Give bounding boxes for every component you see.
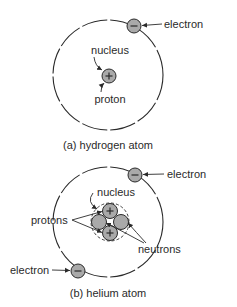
helium-caption: (b) helium atom xyxy=(70,287,146,299)
hydrogen-nucleus-label: nucleus xyxy=(91,44,129,56)
helium-electron-top-arrow xyxy=(143,174,164,175)
neutrons-arrow-right xyxy=(128,223,146,243)
helium-orbit xyxy=(53,167,163,277)
hydrogen-proton-label: proton xyxy=(94,93,125,105)
helium-electron-bottom-arrow xyxy=(52,270,70,271)
helium-protons-label: protons xyxy=(31,214,68,226)
hydrogen-proton xyxy=(102,69,116,83)
atom-diagram: electron nucleus proton (a) hydrogen ato… xyxy=(0,0,237,307)
neutron-left xyxy=(92,215,107,230)
hydrogen-nucleus-arrow xyxy=(94,57,102,70)
helium-electron-top xyxy=(128,168,142,182)
hydrogen-electron xyxy=(127,19,141,33)
helium-electron-bottom-label: electron xyxy=(10,264,49,276)
hydrogen-proton-arrow xyxy=(101,83,104,92)
hydrogen-electron-label: electron xyxy=(164,18,203,30)
neutron-right xyxy=(114,215,129,230)
helium-nucleus-arrow xyxy=(90,193,97,209)
proton-top xyxy=(103,204,118,219)
hydrogen-atom: electron nucleus proton (a) hydrogen ato… xyxy=(53,18,203,151)
helium-atom: electron electron nucle xyxy=(10,167,206,299)
helium-electron-bottom xyxy=(71,264,85,278)
hydrogen-electron-arrow xyxy=(142,24,162,26)
hydrogen-caption: (a) hydrogen atom xyxy=(63,139,153,151)
helium-neutrons-label: neutrons xyxy=(138,243,181,255)
helium-nucleus-label: nucleus xyxy=(97,186,135,198)
helium-electron-top-label: electron xyxy=(167,168,206,180)
